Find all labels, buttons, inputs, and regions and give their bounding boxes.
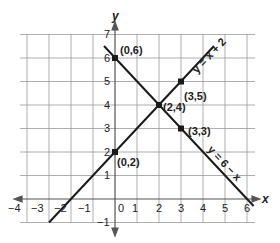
svg-text:6: 6: [244, 202, 250, 214]
svg-text:−4: −4: [8, 202, 21, 214]
svg-text:6: 6: [104, 52, 110, 64]
svg-text:1: 1: [132, 202, 138, 214]
svg-text:2: 2: [156, 202, 162, 214]
svg-text:3: 3: [178, 202, 184, 214]
point-0-6: [112, 55, 118, 61]
svg-text:4: 4: [104, 99, 110, 111]
svg-text:−3: −3: [31, 202, 44, 214]
x-axis-label: x: [261, 192, 270, 206]
point-3-3: [178, 126, 184, 132]
point-0-2: [112, 149, 118, 155]
point-3-5: [178, 79, 184, 85]
svg-text:−1: −1: [97, 216, 110, 228]
svg-text:1: 1: [104, 169, 110, 181]
svg-text:−1: −1: [78, 202, 91, 214]
x-tick-labels: −4 −3 −2 −1 0 1 2 3 4 5 6: [8, 202, 250, 214]
label-point-3-5: (3,5): [184, 90, 207, 102]
svg-text:5: 5: [104, 75, 110, 87]
point-2-4: [156, 102, 162, 108]
label-point-2-4: (2,4): [163, 101, 186, 113]
equation-label-line1: y = x + 2: [190, 35, 228, 75]
svg-text:5: 5: [222, 202, 228, 214]
coordinate-plane: x y −4 −3 −2 −1 0 1 2 3 4 5 6 7 6 5 4 3 …: [0, 0, 280, 243]
y-axis-label: y: [111, 9, 120, 23]
label-point-0-2: (0,2): [117, 156, 140, 168]
label-point-0-6: (0,6): [120, 44, 143, 56]
svg-text:4: 4: [200, 202, 206, 214]
svg-text:7: 7: [104, 28, 110, 40]
svg-text:−2: −2: [54, 202, 67, 214]
svg-text:0: 0: [118, 202, 124, 214]
svg-text:3: 3: [104, 122, 110, 134]
svg-text:2: 2: [104, 146, 110, 158]
label-point-3-3: (3,3): [188, 125, 211, 137]
